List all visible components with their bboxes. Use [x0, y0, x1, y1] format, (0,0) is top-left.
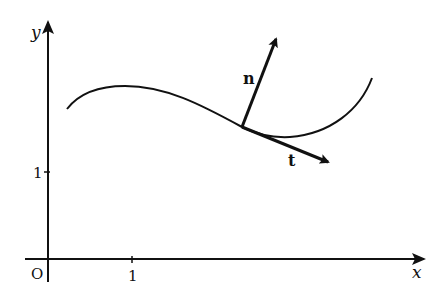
y-axis-label: y [30, 22, 41, 42]
normal-vector-label: n [243, 69, 255, 88]
curve-diagram: y x O 1 1 n t [0, 0, 448, 300]
x-tick-label: 1 [128, 267, 138, 285]
origin-label: O [31, 265, 43, 283]
tangent-vector-label: t [288, 151, 296, 170]
x-axis-label: x [412, 262, 422, 282]
y-tick-label: 1 [33, 164, 43, 182]
plane-curve [67, 78, 372, 137]
